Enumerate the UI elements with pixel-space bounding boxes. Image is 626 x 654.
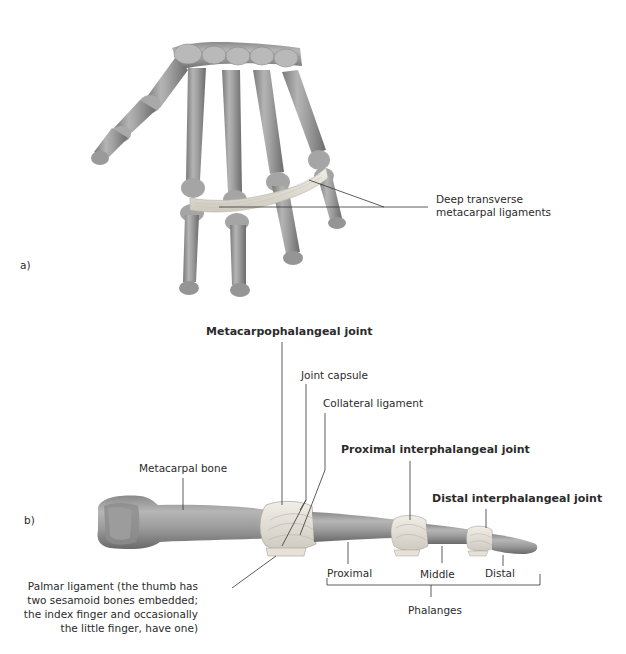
deep-transverse-ligament-band <box>190 168 328 212</box>
label-distal-interphalangeal-joint: Distal interphalangeal joint <box>432 492 602 506</box>
label-deep-transverse-line1: Deep transverse <box>436 192 523 206</box>
label-deep-transverse-line2: metacarpal ligaments <box>436 205 551 219</box>
label-middle-phalanx: Middle <box>420 567 455 581</box>
label-palmar-ligament-line4: the little finger, have one) <box>61 621 198 635</box>
hand-skeleton <box>91 42 428 297</box>
label-proximal-interphalangeal-joint: Proximal interphalangeal joint <box>341 443 530 457</box>
label-proximal-phalanx: Proximal <box>327 566 372 580</box>
label-phalanges: Phalanges <box>408 603 462 617</box>
label-metacarpophalangeal-joint: Metacarpophalangeal joint <box>206 325 373 339</box>
label-distal-phalanx: Distal <box>485 566 515 580</box>
panel-a-letter: a) <box>20 259 31 271</box>
label-palmar-ligament-line3: the index finger and occasionally <box>24 607 198 621</box>
label-palmar-ligament-line1: Palmar ligament (the thumb has <box>28 579 198 593</box>
index-finger-bones <box>179 68 206 295</box>
label-palmar-ligament-line2: two sesamoid bones embedded; <box>27 593 198 607</box>
little-finger-bones <box>282 70 346 229</box>
label-metacarpal-bone: Metacarpal bone <box>139 461 227 475</box>
panel-b-letter: b) <box>24 514 35 526</box>
middle-finger-bones <box>222 70 250 297</box>
label-collateral-ligament: Collateral ligament <box>323 396 423 410</box>
anatomy-figure: Deep transverse metacarpal ligaments a) … <box>0 0 626 654</box>
thumb-bones <box>91 58 188 165</box>
label-joint-capsule: Joint capsule <box>301 368 368 382</box>
